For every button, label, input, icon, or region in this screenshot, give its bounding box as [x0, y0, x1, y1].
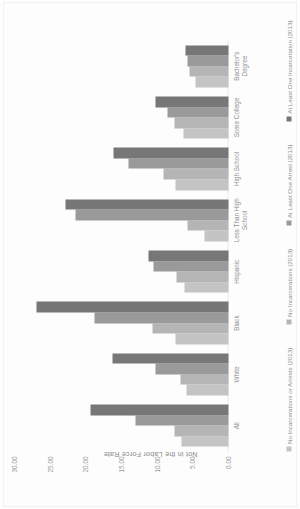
bar [113, 147, 228, 158]
bar-group: Black [14, 297, 228, 348]
y-axis-tick: 25.00 [46, 456, 53, 472]
bar [75, 209, 228, 220]
bar [175, 333, 229, 344]
bar-group: All [14, 400, 228, 451]
bar-chart: Not in the Labor Force Rate 0.005.0010.0… [0, 0, 300, 509]
bar [155, 96, 228, 107]
bar [174, 425, 228, 436]
bar [189, 66, 228, 77]
bar [184, 282, 228, 293]
bar-group: High School [14, 143, 228, 194]
bar [175, 179, 228, 190]
bar [155, 363, 228, 374]
bar [186, 384, 228, 395]
category-label: Less Than High School [232, 197, 247, 243]
bar [176, 271, 228, 282]
legend-item[interactable]: At Least One Incarceration (2013) [285, 20, 292, 121]
bar [180, 374, 229, 385]
y-axis-tick: 30.00 [11, 456, 18, 472]
legend-label: At Least One Incarceration (2013) [285, 20, 292, 113]
bar-group: Less Than High School [14, 194, 228, 245]
bar [148, 250, 228, 261]
bar [135, 415, 228, 426]
category-label: High School [232, 145, 240, 191]
category-label: Hispanic [232, 248, 240, 294]
legend-swatch-icon [286, 319, 291, 324]
bar [174, 117, 228, 128]
legend-swatch-icon [286, 220, 291, 225]
bar [185, 45, 229, 56]
y-axis-tick: 15.00 [118, 456, 125, 472]
category-label: Bachelor's Degree [232, 43, 247, 89]
bar [153, 261, 228, 272]
legend-label: No Incarcerations or Arrests (2013) [285, 347, 292, 443]
bar [90, 404, 228, 415]
bar [181, 436, 228, 447]
category-label: Black [232, 300, 240, 346]
bar-group: Bachelor's Degree [14, 40, 228, 91]
bar [128, 158, 228, 169]
chart-screenshot: Not in the Labor Force Rate 0.005.0010.0… [0, 0, 300, 509]
category-label: All [232, 402, 240, 448]
legend-label: At Least One Arrest (2013) [285, 144, 292, 218]
plot-area: 0.005.0010.0015.0020.0025.0030.00AllWhit… [14, 40, 228, 451]
legend-label: No Incarcerations (2013) [285, 248, 292, 316]
bar [152, 323, 228, 334]
y-axis-tick: 20.00 [82, 456, 89, 472]
bar [65, 199, 228, 210]
bar-group: White [14, 348, 228, 399]
bar [112, 353, 228, 364]
bar [36, 302, 228, 313]
category-label: White [232, 351, 240, 397]
bar [187, 220, 228, 231]
legend-item[interactable]: No Incarcerations or Arrests (2013) [285, 347, 292, 451]
bar [183, 128, 228, 139]
bar [195, 76, 228, 87]
bar [187, 55, 228, 66]
bar-group: Hispanic [14, 246, 228, 297]
y-axis-tick: 0.00 [225, 456, 232, 468]
legend-item[interactable]: No Incarcerations (2013) [285, 248, 292, 324]
rotation-wrapper: Not in the Labor Force Rate 0.005.0010.0… [0, 0, 300, 509]
bar [94, 312, 228, 323]
legend-item[interactable]: At Least One Arrest (2013) [285, 144, 292, 225]
y-axis-tick: 10.00 [153, 456, 160, 472]
category-label: Some College [232, 94, 240, 140]
legend-swatch-icon [286, 116, 291, 121]
bar-group: Some College [14, 91, 228, 142]
y-axis-tick: 5.00 [189, 456, 196, 468]
bar [204, 230, 228, 241]
legend-swatch-icon [286, 446, 291, 451]
bar [163, 168, 228, 179]
chart-legend: No Incarcerations or Arrests (2013)No In… [285, 20, 292, 451]
bar [167, 107, 228, 118]
